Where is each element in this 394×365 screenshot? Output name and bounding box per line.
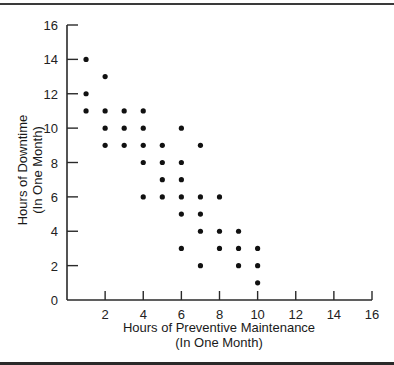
y-tick-label: 8 bbox=[51, 156, 58, 171]
ticks: 0246810121416246810121416 bbox=[44, 18, 380, 322]
data-point bbox=[122, 108, 127, 113]
data-point bbox=[160, 160, 165, 165]
data-point bbox=[103, 74, 108, 79]
data-point bbox=[141, 194, 146, 199]
data-point bbox=[255, 280, 260, 285]
data-point bbox=[122, 143, 127, 148]
data-point bbox=[236, 229, 241, 234]
x-axis-title-main: Hours of Preventive Maintenance bbox=[66, 320, 372, 335]
y-tick-label: 14 bbox=[44, 52, 58, 67]
y-tick-label: 2 bbox=[51, 259, 58, 274]
data-point bbox=[83, 91, 88, 96]
y-axis-title-sub: (In One Month) bbox=[30, 70, 45, 270]
data-point bbox=[198, 211, 203, 216]
data-point bbox=[198, 229, 203, 234]
data-point bbox=[103, 143, 108, 148]
data-point bbox=[141, 126, 146, 131]
axes bbox=[67, 25, 372, 300]
data-point bbox=[83, 108, 88, 113]
y-tick-label: 0 bbox=[51, 293, 58, 308]
data-point bbox=[179, 126, 184, 131]
data-point bbox=[198, 143, 203, 148]
data-point bbox=[198, 194, 203, 199]
y-axis-title: Hours of Downtime (In One Month) bbox=[15, 70, 45, 270]
data-point bbox=[217, 194, 222, 199]
data-point bbox=[255, 246, 260, 251]
data-point bbox=[83, 57, 88, 62]
data-point bbox=[179, 160, 184, 165]
data-point bbox=[122, 126, 127, 131]
data-point bbox=[103, 108, 108, 113]
data-point bbox=[141, 143, 146, 148]
data-point bbox=[160, 143, 165, 148]
x-axis-title: Hours of Preventive Maintenance (In One … bbox=[66, 320, 372, 350]
y-tick-label: 6 bbox=[51, 190, 58, 205]
data-point bbox=[198, 263, 203, 268]
data-points bbox=[83, 57, 260, 286]
data-point bbox=[179, 246, 184, 251]
data-point bbox=[160, 194, 165, 199]
y-axis-title-main: Hours of Downtime bbox=[15, 70, 30, 270]
data-point bbox=[217, 229, 222, 234]
data-point bbox=[103, 126, 108, 131]
y-tick-label: 4 bbox=[51, 224, 58, 239]
y-tick-label: 10 bbox=[44, 121, 58, 136]
data-point bbox=[160, 177, 165, 182]
data-point bbox=[255, 263, 260, 268]
x-axis-title-sub: (In One Month) bbox=[66, 335, 372, 350]
y-tick-label: 12 bbox=[44, 87, 58, 102]
data-point bbox=[236, 246, 241, 251]
data-point bbox=[179, 194, 184, 199]
scatter-plot: 0246810121416246810121416 bbox=[0, 0, 394, 365]
data-point bbox=[141, 160, 146, 165]
data-point bbox=[179, 177, 184, 182]
data-point bbox=[179, 211, 184, 216]
data-point bbox=[141, 108, 146, 113]
data-point bbox=[217, 246, 222, 251]
data-point bbox=[236, 263, 241, 268]
y-tick-label: 16 bbox=[44, 18, 58, 33]
